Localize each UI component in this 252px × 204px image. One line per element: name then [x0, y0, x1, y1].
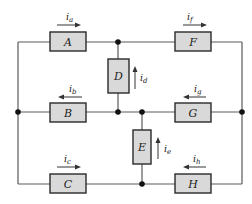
node-bottom-e	[139, 181, 145, 187]
element-A-label: A	[63, 36, 72, 49]
element-E: E	[133, 130, 151, 164]
element-G-label: G	[189, 107, 198, 120]
element-F-label: F	[188, 36, 197, 49]
node-left	[15, 109, 21, 115]
circuit-diagram: A F B G C H D E ia	[0, 0, 252, 204]
node-middle-e	[139, 109, 145, 115]
current-ia-label: ia	[66, 11, 73, 24]
element-B: B	[50, 103, 86, 122]
current-if-arrow-icon	[183, 23, 207, 28]
current-id-label: id	[140, 72, 148, 85]
element-D: D	[108, 59, 129, 93]
element-H-label: H	[187, 178, 198, 191]
current-ih-arrow-icon	[183, 165, 206, 170]
current-if-label: if	[187, 11, 194, 24]
current-ig-arrow-icon	[183, 95, 206, 100]
node-middle-d	[115, 109, 121, 115]
element-B-label: B	[63, 107, 72, 120]
current-id-arrow-icon	[133, 66, 138, 89]
element-A: A	[50, 32, 86, 51]
current-ih-label: ih	[193, 153, 201, 166]
element-C-label: C	[64, 178, 73, 191]
current-ie-label: ie	[164, 143, 171, 156]
current-ig-label: ig	[194, 83, 202, 96]
element-F: F	[175, 32, 211, 51]
current-ib-label: ib	[69, 83, 77, 96]
element-G: G	[175, 103, 211, 122]
current-ic-label: ic	[64, 153, 71, 166]
element-E-label: E	[137, 141, 146, 154]
element-H: H	[175, 174, 211, 193]
current-ie-arrow-icon	[156, 137, 161, 159]
node-right	[239, 109, 245, 115]
current-ib-arrow-icon	[58, 95, 82, 100]
element-C: C	[50, 174, 86, 193]
element-D-label: D	[113, 70, 123, 83]
node-top-d	[115, 39, 121, 45]
